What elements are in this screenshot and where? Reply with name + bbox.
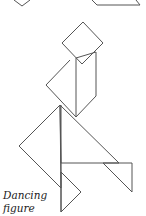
- caption-line-2: figure: [3, 202, 47, 215]
- top-left-partial-piece: [14, 0, 30, 6]
- body-parallelogram: [76, 52, 96, 117]
- head-square: [62, 22, 103, 64]
- caption-line-1: Dancing: [3, 189, 47, 202]
- right-large-triangle: [60, 105, 119, 163]
- right-small-triangle: [103, 163, 132, 192]
- tangram-dancing-figure: [0, 0, 146, 216]
- bottom-small-triangle: [61, 172, 81, 212]
- top-right-partial-piece: [92, 0, 140, 5]
- left-large-triangle: [19, 105, 61, 188]
- figure-caption: Dancing figure: [3, 189, 47, 215]
